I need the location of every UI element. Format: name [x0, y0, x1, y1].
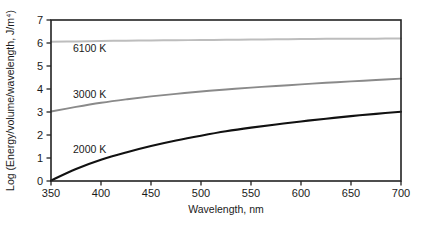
y-tick-label: 7	[37, 14, 43, 26]
y-axis-title: Log (Energy/volume/wavelength, J/m⁴)	[4, 10, 16, 191]
x-tick-label: 650	[342, 187, 360, 199]
x-tick-label: 500	[192, 187, 210, 199]
chart-figure: 01234567 350400450500550600650700 2000 K…	[0, 0, 427, 226]
y-tick-label: 1	[37, 152, 43, 164]
y-tick-label: 4	[37, 83, 43, 95]
x-tick-label: 600	[292, 187, 310, 199]
x-tick-label: 700	[392, 187, 410, 199]
blackbody-radiation-line-chart: 01234567 350400450500550600650700 2000 K…	[0, 0, 427, 226]
series-label-2000-k: 2000 K	[73, 143, 106, 155]
y-tick-label: 3	[37, 106, 43, 118]
x-tick-label: 450	[142, 187, 160, 199]
y-tick-label: 6	[37, 37, 43, 49]
x-tick-label: 550	[242, 187, 260, 199]
x-tick-label: 400	[92, 187, 110, 199]
x-tick-label: 350	[42, 187, 60, 199]
chart-background	[0, 0, 427, 226]
y-tick-label: 5	[37, 60, 43, 72]
x-axis-title: Wavelength, nm	[188, 203, 264, 215]
series-label-3000-k: 3000 K	[73, 88, 106, 100]
y-tick-label: 2	[37, 129, 43, 141]
y-tick-label: 0	[37, 175, 43, 187]
series-label-6100-k: 6100 K	[73, 42, 106, 54]
